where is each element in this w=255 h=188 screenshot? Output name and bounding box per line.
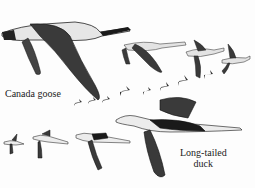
- goose-small-1: [186, 40, 224, 78]
- long-tailed-duck-small: [33, 130, 68, 158]
- long-tailed-duck-label-line2: duck: [180, 158, 227, 169]
- canada-goose-medium: [122, 42, 186, 72]
- long-tailed-duck-medium: [76, 133, 130, 170]
- long-tailed-duck-label: Long-tailed duck: [180, 147, 227, 169]
- long-tailed-duck-tiny: [4, 134, 24, 154]
- long-tailed-duck-label-line1: Long-tailed: [180, 147, 227, 158]
- canada-goose-label: Canada goose: [5, 88, 61, 99]
- goose-small-2: [222, 44, 250, 74]
- bird-illustration: Canada goose Long-tailed duck: [0, 0, 255, 188]
